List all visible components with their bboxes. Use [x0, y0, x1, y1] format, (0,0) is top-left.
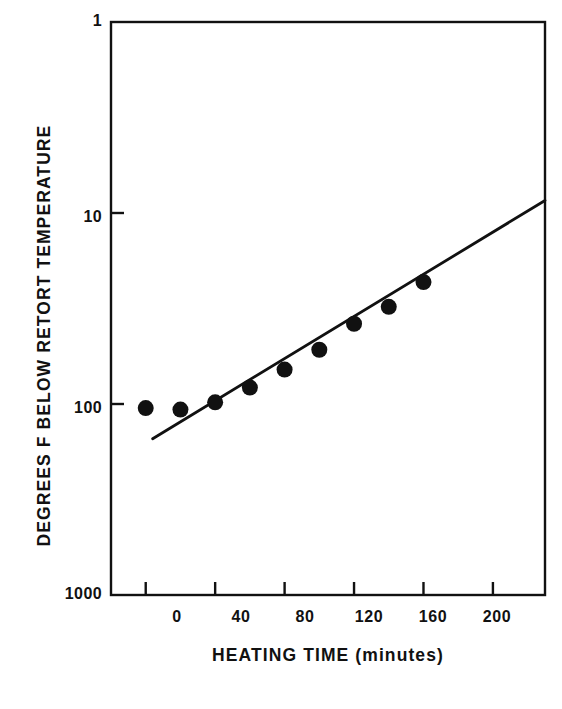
data-point-7 — [381, 299, 397, 315]
plot-area — [0, 0, 562, 709]
tick-marks — [111, 213, 493, 595]
data-point-8 — [415, 274, 431, 290]
data-point-0 — [138, 400, 154, 416]
axis-frame — [111, 22, 545, 595]
data-point-4 — [277, 362, 293, 378]
data-point-5 — [311, 342, 327, 358]
data-point-2 — [207, 394, 223, 410]
data-point-1 — [172, 402, 188, 418]
data-point-3 — [242, 380, 258, 396]
heat-penetration-chart: DEGREES F BELOW RETORT TEMPERATURE HEATI… — [0, 0, 562, 709]
data-point-6 — [346, 316, 362, 332]
